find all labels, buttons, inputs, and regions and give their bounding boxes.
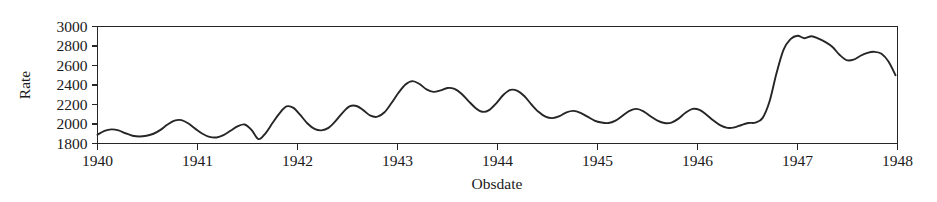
- x-tick-label-1940: 1940: [82, 152, 113, 169]
- line-chart-figure: 1800200022002400260028003000 19401941194…: [0, 0, 937, 202]
- y-tick-label-2800: 2800: [57, 37, 88, 54]
- x-tick-label-1948: 1948: [882, 152, 913, 169]
- y-axis-title: Rate: [16, 71, 33, 100]
- y-tick-label-3000: 3000: [57, 18, 88, 35]
- y-axis-tick-labels: 1800200022002400260028003000: [57, 18, 88, 152]
- y-tick-label-2600: 2600: [57, 57, 88, 74]
- y-tick-label-1800: 1800: [57, 135, 88, 152]
- y-tick-label-2000: 2000: [57, 115, 88, 132]
- x-tick-label-1944: 1944: [482, 152, 513, 169]
- x-tick-label-1946: 1946: [682, 152, 713, 169]
- x-tick-label-1947: 1947: [782, 152, 813, 169]
- x-axis-title: Obsdate: [472, 175, 523, 192]
- x-tick-label-1945: 1945: [582, 152, 613, 169]
- y-tick-label-2200: 2200: [57, 96, 88, 113]
- x-tick-label-1942: 1942: [282, 152, 313, 169]
- x-axis-tick-labels: 194019411942194319441945194619471948: [82, 152, 913, 169]
- x-tick-label-1943: 1943: [382, 152, 413, 169]
- chart-page: 1800200022002400260028003000 19401941194…: [0, 0, 937, 202]
- chart-svg: 1800200022002400260028003000 19401941194…: [0, 0, 937, 202]
- y-tick-label-2400: 2400: [57, 76, 88, 93]
- x-tick-label-1941: 1941: [182, 152, 213, 169]
